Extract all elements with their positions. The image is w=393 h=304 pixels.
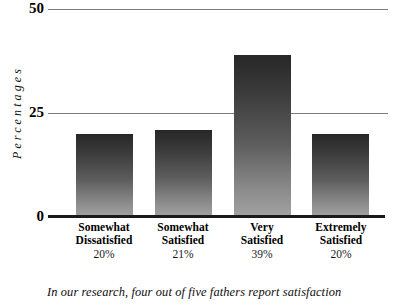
y-tick-label-25: 25 <box>4 105 44 120</box>
category-value-label: 20% <box>291 248 391 261</box>
bar-extremely-satisfied <box>312 134 369 217</box>
bar-slot-somewhat-satisfied <box>155 9 212 217</box>
figure-caption: In our research, four out of five father… <box>47 285 393 300</box>
category-name-line1: Somewhat <box>78 221 130 233</box>
bar-slot-very-satisfied <box>234 9 291 217</box>
category-name-line2: Satisfied <box>320 234 363 246</box>
bar-series <box>48 9 388 217</box>
category-label-extremely-satisfied: Extremely Satisfied 20% <box>291 221 391 262</box>
bar-chart-figure: Percentages 50 25 0 Somewhat Dissatisfie… <box>0 0 393 304</box>
bar-very-satisfied <box>234 55 291 217</box>
category-name-line2: Satisfied <box>162 234 205 246</box>
x-axis-baseline <box>48 215 385 218</box>
y-tick-label-50: 50 <box>4 1 44 16</box>
bar-somewhat-dissatisfied <box>76 134 133 217</box>
category-name-line1: Extremely <box>315 221 366 233</box>
bar-somewhat-satisfied <box>155 130 212 217</box>
category-labels: Somewhat Dissatisfied 20% Somewhat Satis… <box>48 221 388 269</box>
category-name-line2: Dissatisfied <box>76 234 133 246</box>
bar-slot-somewhat-dissatisfied <box>76 9 133 217</box>
category-name-line1: Somewhat <box>157 221 209 233</box>
category-name-line2: Satisfied <box>241 234 284 246</box>
y-tick-label-0: 0 <box>4 209 44 224</box>
category-name-line1: Very <box>250 221 273 233</box>
bar-slot-extremely-satisfied <box>312 9 369 217</box>
